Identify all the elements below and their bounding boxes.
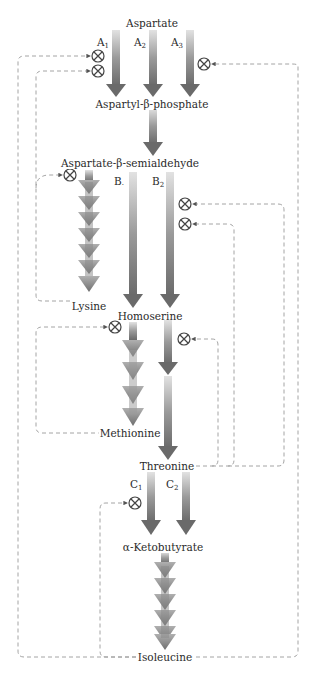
feedback-isoleucine-c1 <box>100 503 150 657</box>
inhibit-icon-lysine-branch <box>64 169 76 181</box>
inhibit-icon-b2-upper <box>179 198 191 210</box>
enzyme-label-c1: C1 <box>130 478 143 494</box>
enzyme-label-a2: A2 <box>134 36 146 52</box>
label-aspartate: Aspartate <box>125 17 179 29</box>
label-ketobutyrate: α-Ketobutyrate <box>122 541 204 553</box>
enzyme-label-a1: A1 <box>97 36 109 52</box>
feedback-threonine-b1 <box>193 204 284 466</box>
multistep-arrows <box>78 170 176 650</box>
feedback-threonine-b2 <box>193 224 234 466</box>
label-lysine: Lysine <box>71 300 107 312</box>
label-methionine: Methionine <box>99 427 162 439</box>
enzyme-label-b1: B· <box>114 175 124 191</box>
feedback-lysine-branch <box>36 175 62 188</box>
inhibit-icon-threonine-synth <box>178 333 190 345</box>
inhibit-icon-homoserine <box>109 321 121 333</box>
feedback-isoleucine-a3 <box>182 64 298 657</box>
inhibit-icon-b2-lower <box>179 218 191 230</box>
feedback-methionine <box>36 327 107 433</box>
feedback-lysine-a1 <box>36 71 90 301</box>
enzyme-label-b2: B2 <box>152 175 164 191</box>
enzyme-label-c2: C2 <box>166 478 179 494</box>
inhibit-icon-c1 <box>129 497 141 509</box>
label-aspartyl-phosphate: Aspartyl-β-phosphate <box>94 98 209 110</box>
inhibit-icon-a3 <box>198 58 210 70</box>
feedback-threonine-b2-lower <box>192 339 218 466</box>
label-aspartate-semialdehyde: Aspartate-β-semialdehyde <box>60 157 200 169</box>
label-isoleucine: Isoleucine <box>137 651 193 663</box>
enzyme-label-a3: A3 <box>171 36 183 52</box>
label-threonine: Threonine <box>139 460 195 472</box>
label-homoserine: Homoserine <box>117 310 184 322</box>
inhibit-icon-a1-lower <box>92 65 104 77</box>
